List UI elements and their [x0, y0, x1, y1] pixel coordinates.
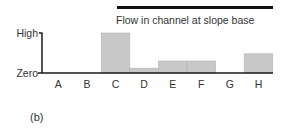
x-tick-label-f: F	[198, 78, 204, 90]
panel-label: (b)	[30, 111, 43, 123]
title-bar	[117, 6, 273, 9]
bar-h	[244, 54, 273, 73]
x-tick-label-e: E	[169, 78, 176, 90]
bar-e	[158, 61, 187, 73]
x-tick-label-a: A	[55, 78, 62, 90]
x-tick-label-g: G	[226, 78, 234, 90]
x-tick-label-d: D	[140, 78, 148, 90]
chart-title: Flow in channel at slope base	[116, 14, 254, 26]
x-tick-label-b: B	[83, 78, 90, 90]
bar-f	[187, 61, 216, 73]
y-tick-label-high: High	[16, 27, 38, 39]
bar-c	[101, 33, 130, 73]
x-tick-label-c: C	[112, 78, 120, 90]
y-tick-label-zero: Zero	[16, 67, 38, 79]
bar-chart: Flow in channel at slope base High Zero …	[0, 0, 287, 134]
x-tick-label-h: H	[255, 78, 263, 90]
